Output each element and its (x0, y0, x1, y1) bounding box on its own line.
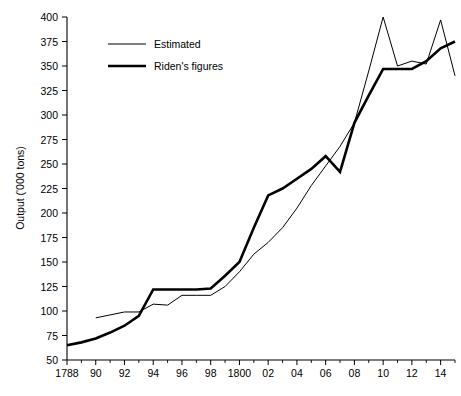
series-line-riden-figures (67, 42, 455, 346)
y-tick-label: 150 (40, 256, 58, 268)
chart-legend: Estimated Riden's figures (108, 38, 223, 72)
y-tick-label: 375 (40, 36, 58, 48)
line-chart: 4003753503253002752502252001751501251007… (0, 0, 461, 396)
x-tick-label: 06 (320, 367, 332, 379)
y-tick-labels: 4003753503253002752502252001751501251007… (40, 11, 58, 366)
y-tick-label: 325 (40, 85, 58, 97)
y-tick-label: 400 (40, 11, 58, 23)
x-tick-label: 1788 (55, 367, 79, 379)
legend-label-riden-figures: Riden's figures (154, 60, 223, 72)
x-tick-marks (67, 360, 455, 365)
y-tick-marks (62, 17, 67, 360)
y-tick-label: 225 (40, 183, 58, 195)
y-axis-title: Output ('000 tons) (14, 146, 26, 230)
x-tick-label: 98 (205, 367, 217, 379)
y-tick-label: 200 (40, 207, 58, 219)
x-tick-label: 94 (147, 367, 159, 379)
x-tick-label: 08 (349, 367, 361, 379)
y-tick-label: 275 (40, 134, 58, 146)
y-tick-label: 50 (46, 354, 58, 366)
y-tick-label: 350 (40, 60, 58, 72)
x-tick-label: 12 (406, 367, 418, 379)
y-tick-label: 300 (40, 109, 58, 121)
y-tick-label: 250 (40, 158, 58, 170)
x-tick-label: 1800 (228, 367, 252, 379)
legend-label-estimated: Estimated (154, 38, 201, 50)
y-tick-label: 75 (46, 330, 58, 342)
y-tick-label: 100 (40, 305, 58, 317)
x-tick-label: 14 (435, 367, 447, 379)
x-tick-labels: 17889092949698180002040608101214 (55, 367, 446, 379)
y-tick-label: 125 (40, 281, 58, 293)
x-tick-label: 92 (119, 367, 131, 379)
x-tick-label: 96 (176, 367, 188, 379)
x-tick-label: 04 (291, 367, 303, 379)
x-tick-label: 90 (90, 367, 102, 379)
series-line-estimated (96, 17, 455, 318)
x-tick-label: 02 (262, 367, 274, 379)
chart-figure: 4003753503253002752502252001751501251007… (0, 0, 461, 396)
y-tick-label: 175 (40, 232, 58, 244)
x-tick-label: 10 (377, 367, 389, 379)
